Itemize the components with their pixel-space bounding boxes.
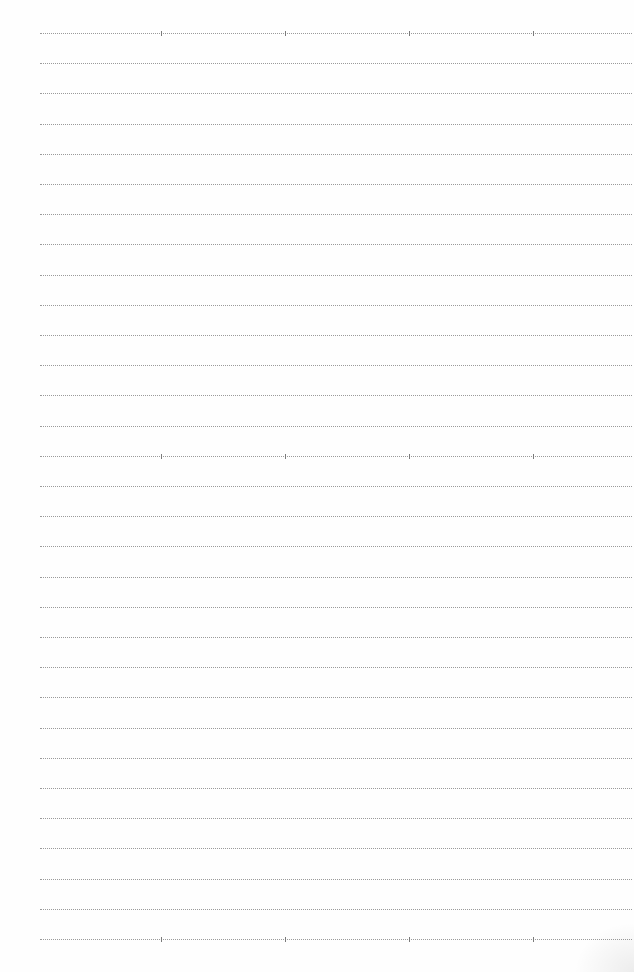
ruled-line: [40, 486, 632, 487]
ruled-line: [40, 335, 632, 336]
lined-paper-page: [0, 0, 634, 972]
ruled-line: [40, 63, 632, 64]
tick-mark: [409, 454, 410, 459]
ruled-line: [40, 516, 632, 517]
tick-mark: [533, 937, 534, 942]
ruled-line: [40, 909, 632, 910]
ruled-line: [40, 184, 632, 185]
tick-mark: [533, 31, 534, 36]
tick-mark: [161, 31, 162, 36]
ruled-line: [40, 33, 632, 34]
tick-mark: [285, 454, 286, 459]
ruled-line: [40, 637, 632, 638]
ruled-line: [40, 879, 632, 880]
ruled-line: [40, 275, 632, 276]
ruled-line: [40, 577, 632, 578]
ruled-line: [40, 426, 632, 427]
ruled-line: [40, 93, 632, 94]
ruled-line: [40, 818, 632, 819]
tick-mark: [409, 937, 410, 942]
ruled-line: [40, 395, 632, 396]
ruled-line: [40, 607, 632, 608]
ruled-line: [40, 546, 632, 547]
ruled-line: [40, 124, 632, 125]
tick-mark: [161, 937, 162, 942]
ruled-line: [40, 728, 632, 729]
ruled-line: [40, 939, 632, 940]
ruled-line: [40, 244, 632, 245]
tick-mark: [533, 454, 534, 459]
ruled-line: [40, 154, 632, 155]
page-corner-shadow: [574, 922, 634, 972]
ruled-line: [40, 758, 632, 759]
ruled-line: [40, 456, 632, 457]
ruled-line: [40, 214, 632, 215]
tick-mark: [285, 31, 286, 36]
tick-mark: [409, 31, 410, 36]
ruled-line: [40, 667, 632, 668]
ruled-line: [40, 697, 632, 698]
ruled-line: [40, 305, 632, 306]
tick-mark: [161, 454, 162, 459]
ruled-line: [40, 788, 632, 789]
ruled-line: [40, 848, 632, 849]
tick-mark: [285, 937, 286, 942]
ruled-line: [40, 365, 632, 366]
